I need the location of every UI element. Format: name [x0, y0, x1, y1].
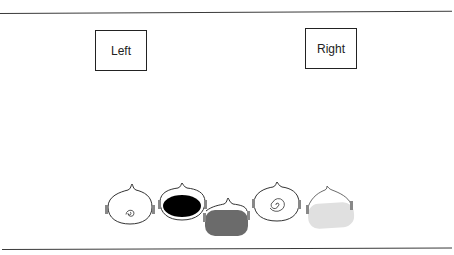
shapes-canvas — [0, 0, 454, 255]
shape-4-outline-large-spiral — [252, 182, 301, 221]
shape-2-black-filled — [158, 183, 207, 220]
shape-3-gray-filled — [203, 198, 250, 236]
shape-5-lightgray-filled — [306, 186, 355, 230]
shape-1-outline-small-spiral — [105, 184, 155, 224]
